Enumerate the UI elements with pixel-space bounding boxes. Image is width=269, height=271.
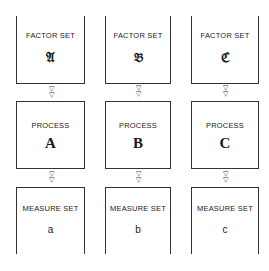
arrow-down-icon: ▽▽ [134, 85, 142, 97]
arrow-down-icon: ▽▽ [221, 85, 229, 97]
measure-set-name: a [17, 224, 84, 235]
arrow-down-icon: ▽▽ [47, 86, 55, 98]
factor-set-label: FACTOR SET [106, 31, 170, 40]
process-name: B [106, 135, 170, 152]
factor-set-symbol: 𝔅 [106, 50, 170, 66]
arrow-down-icon: ▽▽ [47, 171, 55, 183]
measure-set-box-c: MEASURE SET c [191, 187, 259, 254]
measure-set-name: b [106, 224, 170, 235]
process-box-a: PROCESS A [16, 101, 85, 169]
factor-set-symbol: 𝔄 [17, 50, 84, 66]
process-box-c: PROCESS C [191, 101, 259, 169]
process-name: C [192, 135, 258, 152]
process-label: PROCESS [106, 121, 170, 130]
measure-set-label: MEASURE SET [17, 204, 84, 213]
measure-set-label: MEASURE SET [106, 204, 170, 213]
factor-set-label: FACTOR SET [192, 31, 258, 40]
measure-set-box-a: MEASURE SET a [16, 187, 85, 254]
factor-set-symbol: ℭ [192, 50, 258, 65]
factor-set-box-c: FACTOR SET ℭ [191, 16, 259, 84]
factor-set-box-a: FACTOR SET 𝔄 [16, 16, 85, 84]
factor-set-label: FACTOR SET [17, 31, 84, 40]
arrow-down-icon: ▽▽ [134, 171, 142, 183]
measure-set-name: c [192, 224, 258, 235]
factor-set-box-b: FACTOR SET 𝔅 [105, 16, 171, 84]
measure-set-label: MEASURE SET [192, 204, 258, 213]
process-label: PROCESS [192, 121, 258, 130]
measure-set-box-b: MEASURE SET b [105, 187, 171, 254]
arrow-down-icon: ▽▽ [221, 171, 229, 183]
process-name: A [17, 135, 84, 152]
process-box-b: PROCESS B [105, 101, 171, 169]
process-label: PROCESS [17, 121, 84, 130]
